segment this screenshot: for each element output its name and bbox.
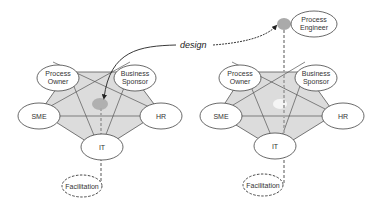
svg-text:HR: HR — [156, 113, 166, 120]
right-node-sme: SME — [200, 103, 242, 129]
right-node-hr: HR — [322, 103, 364, 129]
right-team-cluster: Process Engineer Process Owner Business … — [200, 11, 364, 196]
svg-text:Sponsor: Sponsor — [122, 78, 149, 86]
left-node-business-sponsor: Business Sponsor — [114, 65, 156, 91]
process-engineer-blob — [277, 18, 291, 30]
right-node-facilitation: Facilitation — [243, 174, 283, 196]
left-node-sme: SME — [18, 103, 60, 129]
right-node-process-engineer: Process Engineer — [277, 11, 337, 37]
left-node-facilitation: Facilitation — [62, 175, 102, 197]
svg-text:Process: Process — [301, 16, 327, 23]
svg-text:Facilitation: Facilitation — [65, 183, 99, 190]
left-node-hr: HR — [140, 103, 182, 129]
design-arrow-to-right — [213, 26, 276, 45]
svg-text:IT: IT — [272, 143, 279, 150]
svg-text:HR: HR — [338, 113, 348, 120]
svg-text:SME: SME — [31, 113, 47, 120]
svg-text:Owner: Owner — [230, 78, 251, 85]
svg-text:Owner: Owner — [48, 78, 69, 85]
right-node-process-owner: Process Owner — [219, 65, 261, 91]
svg-text:Sponsor: Sponsor — [303, 78, 330, 86]
svg-text:Process: Process — [227, 70, 253, 77]
svg-text:Business: Business — [121, 70, 150, 77]
svg-text:Engineer: Engineer — [300, 24, 329, 32]
right-node-it: IT — [254, 133, 296, 159]
left-node-process-owner: Process Owner — [37, 65, 79, 91]
left-node-it: IT — [81, 134, 123, 160]
right-node-business-sponsor: Business Sponsor — [295, 65, 337, 91]
svg-text:SME: SME — [213, 113, 229, 120]
design-label: design — [180, 40, 207, 50]
team-diagram: Process Owner Business Sponsor SME HR IT… — [0, 0, 391, 214]
svg-text:IT: IT — [99, 144, 106, 151]
left-team-cluster: Process Owner Business Sponsor SME HR IT… — [18, 62, 182, 197]
svg-text:Business: Business — [302, 70, 331, 77]
svg-text:Facilitation: Facilitation — [246, 182, 280, 189]
svg-text:Process: Process — [45, 70, 71, 77]
